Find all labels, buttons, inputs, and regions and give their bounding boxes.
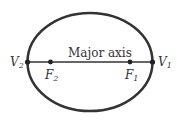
- major-axis-label: Major axis: [68, 46, 132, 60]
- focus-f2-label: F2: [44, 68, 58, 83]
- vertex-v1-point: [150, 59, 155, 64]
- focus-f2-point: [48, 60, 53, 65]
- focus-f1-label: F1: [124, 68, 138, 83]
- ellipse-diagram: Major axis V2 F2 F1 V1: [0, 0, 177, 123]
- focus-f1-point: [128, 60, 133, 65]
- vertex-v2-point: [25, 59, 30, 64]
- ellipse-figure: Major axis V2 F2 F1 V1: [0, 0, 177, 123]
- vertex-v1-label: V1: [158, 55, 172, 70]
- vertex-v2-label: V2: [10, 55, 24, 70]
